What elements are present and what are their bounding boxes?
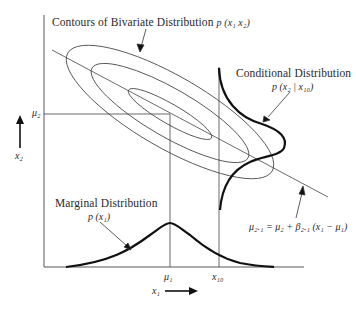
x2-arrowhead-icon xyxy=(16,115,24,124)
diagram-svg xyxy=(0,0,356,311)
marginal-formula: p (x₁) xyxy=(88,212,110,222)
marginal-title: Marginal Distribution xyxy=(55,198,158,210)
regression-arrow xyxy=(296,193,302,218)
conditional-title: Conditional Distribution xyxy=(236,68,351,80)
contours-title: Contours of Bivariate Distribution xyxy=(52,16,214,28)
x10-label: x₁₀ xyxy=(212,272,223,282)
contours-label: Contours of Bivariate Distribution p (x₁… xyxy=(52,17,250,29)
contours-formula: p (x₁ x₂) xyxy=(217,17,250,28)
contours-arrowhead xyxy=(137,44,144,52)
regression-formula: μ₂.₁ = μ₂ + β₂.₁ (x₁ − μ₁) xyxy=(249,222,347,232)
conditional-arrowhead xyxy=(263,116,270,122)
mu1-label: μ₁ xyxy=(164,272,173,282)
regression-arrowhead xyxy=(299,186,305,195)
marginal-arrow xyxy=(100,222,127,246)
diagram-canvas: Contours of Bivariate Distribution p (x₁… xyxy=(0,0,356,311)
annotation-arrows xyxy=(100,29,305,250)
x1-arrowhead-icon xyxy=(189,287,198,295)
conditional-formula: p (x₂ | x₁₀) xyxy=(272,82,313,92)
x2-axis-label: x₂ xyxy=(15,151,23,161)
conditional-arrow xyxy=(268,92,290,117)
x1-axis-label: x₁ xyxy=(152,286,160,296)
mu2-label: μ₂ xyxy=(32,108,41,118)
